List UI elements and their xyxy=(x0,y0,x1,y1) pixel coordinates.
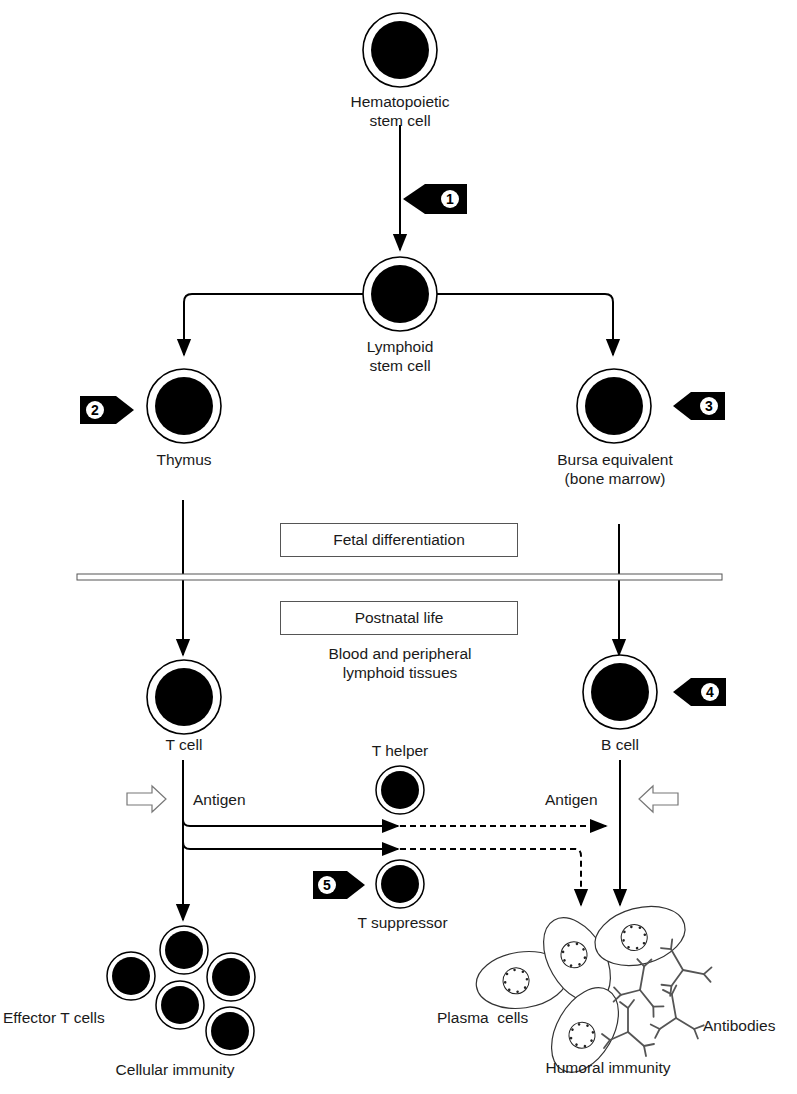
cellular-immunity-label: Cellular immunity xyxy=(100,1060,250,1079)
antigen-right-label: Antigen xyxy=(545,790,598,809)
humoral-immunity-label: Humoral immunity xyxy=(528,1058,688,1077)
bursa-label-line2: (bone marrow) xyxy=(540,469,690,488)
effector-t-cells-label: Effector T cells xyxy=(3,1008,105,1027)
hematopoietic-stem-cell-label: Hematopoietic stem cell xyxy=(330,92,470,130)
b-cell-icon xyxy=(583,655,657,729)
antigen-left-label: Antigen xyxy=(193,790,246,809)
t-suppressor-cell-icon xyxy=(376,860,424,908)
svg-text:3: 3 xyxy=(705,398,713,414)
dashed-arrow-tsuppressor-to-plasma xyxy=(400,849,581,905)
antibodies-label: Antibodies xyxy=(703,1016,775,1035)
lymphoid-stem-cell-icon xyxy=(363,257,437,331)
marker-1-icon: 1 xyxy=(403,184,467,214)
marker-3-icon: 3 xyxy=(673,392,725,420)
marker-5-icon: 5 xyxy=(313,871,365,899)
thymus-label: Thymus xyxy=(134,450,234,469)
t-cell-label: T cell xyxy=(144,735,224,754)
svg-text:1: 1 xyxy=(446,191,454,207)
tissues-label-line1: Blood and peripheral xyxy=(300,644,500,663)
svg-text:4: 4 xyxy=(706,684,714,700)
hematopoietic-stem-cell-icon xyxy=(363,13,437,87)
arrow-lymphoid-to-thymus xyxy=(184,294,363,355)
blood-peripheral-tissues-label: Blood and peripheral lymphoid tissues xyxy=(300,644,500,682)
b-cell-label: B cell xyxy=(580,735,660,754)
hematopoietic-label-line2: stem cell xyxy=(330,111,470,130)
fetal-differentiation-box: Fetal differentiation xyxy=(280,523,518,557)
tissues-label-line2: lymphoid tissues xyxy=(300,663,500,682)
lymphoid-label-line2: stem cell xyxy=(340,356,460,375)
t-suppressor-label: T suppressor xyxy=(345,913,460,932)
postnatal-life-box: Postnatal life xyxy=(280,601,518,635)
t-cell-icon xyxy=(147,660,221,734)
marker-4-icon: 4 xyxy=(673,678,726,706)
bursa-cell-icon xyxy=(577,369,651,443)
arrow-tcell-to-thelper xyxy=(183,820,398,826)
marker-2-icon: 2 xyxy=(80,396,134,424)
arrow-tcell-to-tsuppressor xyxy=(183,842,398,849)
thymus-cell-icon xyxy=(147,369,221,443)
antigen-arrow-left-icon xyxy=(127,786,166,812)
plasma-cells-label: Plasma cells xyxy=(437,1008,528,1027)
svg-text:2: 2 xyxy=(91,402,99,418)
t-helper-label: T helper xyxy=(355,741,445,760)
t-helper-cell-icon xyxy=(376,766,424,814)
svg-text:5: 5 xyxy=(323,877,331,893)
hematopoietic-label-line1: Hematopoietic xyxy=(330,92,470,111)
plasma-cells-icon xyxy=(473,897,692,1084)
effector-t-cells-icon xyxy=(107,926,255,1055)
bursa-label: Bursa equivalent (bone marrow) xyxy=(540,450,690,488)
antigen-arrow-right-icon xyxy=(639,786,678,812)
arrow-lymphoid-to-bursa xyxy=(437,294,613,355)
bursa-label-line1: Bursa equivalent xyxy=(540,450,690,469)
fetal-postnatal-divider xyxy=(77,574,722,580)
lymphoid-stem-cell-label: Lymphoid stem cell xyxy=(340,337,460,375)
lymphoid-label-line1: Lymphoid xyxy=(340,337,460,356)
